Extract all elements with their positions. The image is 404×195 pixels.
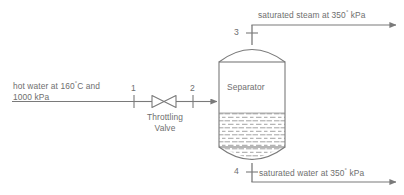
state-label-3: 3	[234, 28, 239, 37]
separator-vessel	[219, 50, 285, 161]
inlet-label-line1-tail: C and	[77, 81, 100, 91]
inlet-label-line2: 1000 kPa	[13, 92, 49, 102]
valve-label-line2: Valve	[155, 123, 176, 133]
bottom-outlet-text-head: saturated water at 350	[259, 168, 345, 178]
inlet-label-line1: hot water at 160	[13, 81, 75, 91]
top-outlet-label: saturated steam at 350° kPa	[258, 10, 366, 21]
valve-label: ThrottlingValve	[130, 112, 200, 133]
state-label-4: 4	[234, 167, 239, 176]
top-outlet-text-tail: kPa	[348, 10, 365, 20]
state-label-1: 1	[131, 84, 136, 93]
bottom-outlet-label: saturated water at 350° kPa	[259, 168, 364, 179]
process-flow-diagram: hot water at 160°C and1000 kPa 1 2 Throt…	[0, 0, 404, 195]
separator-label: Separator	[227, 82, 265, 93]
state-label-2: 2	[190, 84, 195, 93]
top-outlet-text-head: saturated steam at 350	[258, 10, 346, 20]
top-outlet-pipe	[246, 25, 396, 45]
valve-label-line1: Throttling	[147, 112, 183, 122]
bottom-outlet-text-tail: kPa	[347, 168, 364, 178]
inlet-stream-label: hot water at 160°C and1000 kPa	[13, 81, 100, 102]
bowtie-valve-icon	[152, 96, 176, 108]
